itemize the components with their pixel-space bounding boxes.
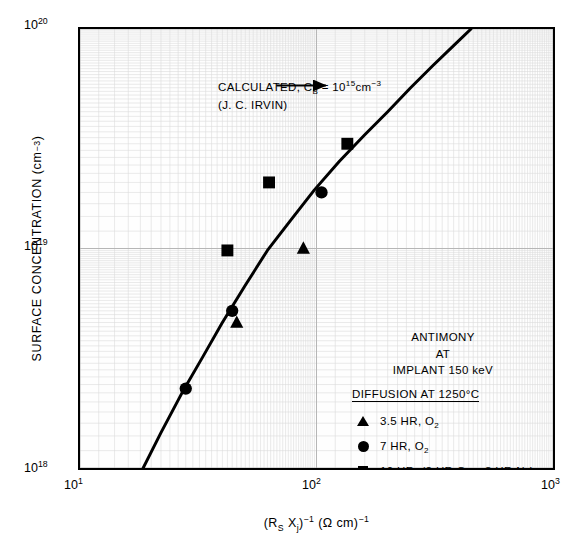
x-tick-label-1e2: 102	[302, 478, 321, 492]
y-tick-exponent: 19	[38, 237, 48, 247]
legend-label-triangle: 3.5 HR, O2	[380, 415, 439, 427]
legend-item-triangle[interactable]: 3.5 HR, O2	[352, 415, 534, 427]
legend-label-text: 10 HR, (2 HR O	[380, 465, 466, 470]
data-point-circle	[315, 186, 327, 198]
data-point-circle	[226, 305, 238, 317]
x-tick-exponent: 2	[316, 476, 321, 486]
legend-label-text: 3.5 HR, O	[380, 415, 434, 427]
triangle-marker-icon	[352, 416, 374, 426]
x-tick-base: 10	[541, 478, 555, 492]
x-axis-title-mid: X	[284, 516, 297, 530]
annotation-unit-exponent: −3	[372, 79, 382, 88]
caption-at: AT	[352, 346, 534, 363]
legend-header-diffusion: DIFFUSION AT 1250°C	[352, 388, 479, 402]
y-tick-label-1e20: 1020	[24, 18, 48, 32]
x-tick-base: 10	[302, 478, 316, 492]
legend-label-subscript: 2	[424, 446, 429, 455]
y-tick-exponent: 20	[38, 16, 48, 26]
x-axis-title-open: (R	[264, 516, 278, 530]
legend-label-text: 7 HR, O	[380, 440, 424, 452]
plot-area: CALCULATED, CB = 1015cm−3 (J. C. IRVIN) …	[78, 27, 555, 470]
y-axis-title-suffix: )	[30, 136, 44, 141]
y-axis-title-text: SURFACE CONCENTRATION (cm	[30, 152, 44, 362]
legend-label-text-3: )	[530, 465, 534, 470]
data-point-triangle	[297, 241, 310, 253]
annotation-unit: cm	[355, 81, 371, 93]
legend-item-circle[interactable]: 7 HR, O2	[352, 440, 534, 452]
x-tick-base: 10	[64, 478, 78, 492]
caption-material: ANTIMONY	[352, 329, 534, 346]
x-tick-label-1e1: 101	[64, 478, 83, 492]
data-point-circle	[180, 382, 192, 394]
x-tick-label-1e3: 103	[541, 478, 560, 492]
x-axis-title-exp2: −1	[358, 514, 369, 524]
data-point-square	[263, 176, 275, 188]
y-tick-label-1e18: 1018	[24, 461, 48, 475]
y-tick-base: 10	[24, 461, 38, 475]
data-point-square	[341, 138, 353, 150]
x-tick-exponent: 3	[555, 476, 560, 486]
figure-log-log-plot: SURFACE CONCENTRATION (cm−3) 1020 1019 1…	[0, 0, 583, 555]
y-tick-label-1e19: 1019	[24, 239, 48, 253]
square-marker-icon	[352, 466, 374, 470]
x-axis-title: (RS Xj)−1 (Ω cm)−1	[78, 516, 555, 530]
y-tick-exponent: 18	[38, 459, 48, 469]
circle-marker-icon	[352, 441, 374, 452]
legend-label-text-2: + 8 HR N	[471, 465, 525, 470]
legend-label-circle: 7 HR, O2	[380, 440, 429, 452]
legend-label-square: 10 HR, (2 HR O2 + 8 HR N2)	[380, 465, 534, 470]
y-tick-base: 10	[24, 239, 38, 253]
legend-block: ANTIMONY AT IMPLANT 150 keV DIFFUSION AT…	[352, 329, 534, 470]
data-point-square	[221, 244, 233, 256]
data-point-triangle	[230, 315, 243, 327]
x-tick-exponent: 1	[78, 476, 83, 486]
annotation-equals: = 10	[318, 81, 346, 93]
x-axis-title-exp1: −1	[304, 514, 315, 524]
y-tick-base: 10	[24, 18, 38, 32]
calculated-annotation: CALCULATED, CB = 1015cm−3 (J. C. IRVIN)	[218, 79, 381, 115]
legend-item-square[interactable]: 10 HR, (2 HR O2 + 8 HR N2)	[352, 465, 534, 470]
x-axis-title-unit: (Ω cm)	[314, 516, 358, 530]
legend-label-subscript: 2	[434, 421, 439, 430]
caption-implant: IMPLANT 150 keV	[352, 362, 534, 379]
annotation-line-1: CALCULATED, CB = 1015cm−3	[218, 79, 381, 97]
annotation-line-2: (J. C. IRVIN)	[218, 97, 381, 115]
annotation-calculated-text: CALCULATED, C	[218, 81, 312, 93]
